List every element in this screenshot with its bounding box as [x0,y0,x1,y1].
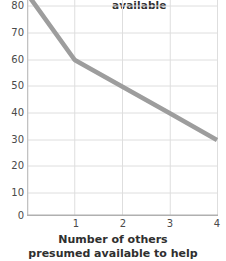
y-tick-30: 30 [2,135,24,145]
plot-area [27,0,218,216]
chart-figure: available [0,0,226,261]
x-axis-label: Number of others presumed available to h… [0,233,226,261]
y-tick-50: 50 [2,81,24,91]
x-tick-4: 4 [207,218,226,230]
x-tick-1: 1 [66,218,86,230]
x-axis-label-line-2: presumed available to help [0,247,226,261]
y-axis-tick-labels: 80 70 60 50 40 30 20 10 0 [0,0,24,216]
x-axis-label-line-1: Number of others [0,233,226,247]
y-tick-80: 80 [2,1,24,11]
y-tick-20: 20 [2,161,24,171]
y-tick-40: 40 [2,108,24,118]
y-tick-70: 70 [2,28,24,38]
x-tick-3: 3 [160,218,180,230]
plot-svg [27,0,218,216]
x-tick-2: 2 [113,218,133,230]
y-tick-60: 60 [2,55,24,65]
x-axis-tick-labels: 1 2 3 4 [0,218,226,234]
y-tick-10: 10 [2,188,24,198]
vertical-gridlines [75,0,218,216]
